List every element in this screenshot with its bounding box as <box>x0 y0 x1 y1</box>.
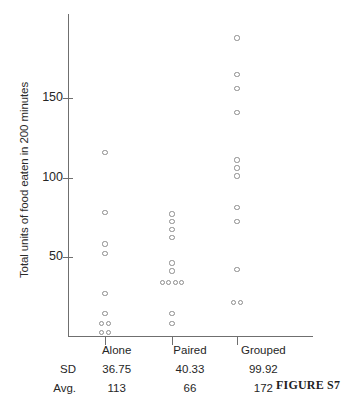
y-axis-line <box>68 14 69 337</box>
y-tick-mark <box>63 178 73 179</box>
stats-cell: 40.33 <box>153 359 226 378</box>
stats-table-row: SD36.7540.3399.92 <box>0 359 300 378</box>
data-point <box>169 219 174 224</box>
x-axis-label-alone: Alone <box>80 341 153 359</box>
data-point <box>234 173 239 178</box>
data-point <box>169 227 174 232</box>
data-point <box>169 311 174 316</box>
data-point <box>234 157 239 162</box>
data-point <box>99 330 104 335</box>
data-point <box>234 110 239 115</box>
data-point <box>102 150 107 155</box>
data-point <box>102 291 107 296</box>
y-tick-mark <box>63 257 73 258</box>
data-point <box>102 311 107 316</box>
data-point <box>234 219 239 224</box>
data-point <box>179 280 184 285</box>
data-point <box>234 205 239 210</box>
data-point <box>231 300 236 305</box>
stats-table-row: Avg.11366172 <box>0 378 300 397</box>
plot-area: 50100150 <box>68 14 313 337</box>
y-axis-title: Total units of food eaten in 200 minutes <box>18 55 38 305</box>
data-point <box>234 86 239 91</box>
data-point <box>169 268 174 273</box>
stats-table: AlonePairedGroupedSD36.7540.3399.92Avg.1… <box>0 341 300 401</box>
y-tick-label: 150 <box>42 90 63 104</box>
data-point <box>234 165 239 170</box>
data-point <box>102 251 107 256</box>
data-point <box>234 35 239 40</box>
data-point <box>234 72 239 77</box>
figure-caption: FIGURE S7 <box>276 378 340 393</box>
data-point <box>169 321 174 326</box>
y-tick-label: 50 <box>49 249 63 263</box>
data-point <box>169 235 174 240</box>
data-point <box>166 280 171 285</box>
x-axis-label-paired: Paired <box>153 341 226 359</box>
data-point <box>234 267 239 272</box>
stats-cell: 66 <box>153 378 226 397</box>
data-point <box>99 321 104 326</box>
stats-table-corner <box>0 341 80 359</box>
data-point <box>173 280 178 285</box>
stats-table-header-row: AlonePairedGrouped <box>0 341 300 359</box>
figure-s7-scatter-plot: Total units of food eaten in 200 minutes… <box>0 0 358 413</box>
stats-cell: 99.92 <box>227 359 300 378</box>
data-point <box>106 330 111 335</box>
data-point <box>106 321 111 326</box>
y-tick-mark <box>63 98 73 99</box>
stats-cell: 36.75 <box>80 359 153 378</box>
data-point <box>160 280 165 285</box>
data-point <box>238 300 243 305</box>
data-point <box>102 241 107 246</box>
data-point <box>169 260 174 265</box>
stats-cell: 113 <box>80 378 153 397</box>
data-point <box>169 211 174 216</box>
data-point <box>102 210 107 215</box>
stats-row-label: SD <box>0 359 80 378</box>
stats-row-label: Avg. <box>0 378 80 397</box>
y-tick-label: 100 <box>42 170 63 184</box>
x-axis-label-grouped: Grouped <box>227 341 300 359</box>
